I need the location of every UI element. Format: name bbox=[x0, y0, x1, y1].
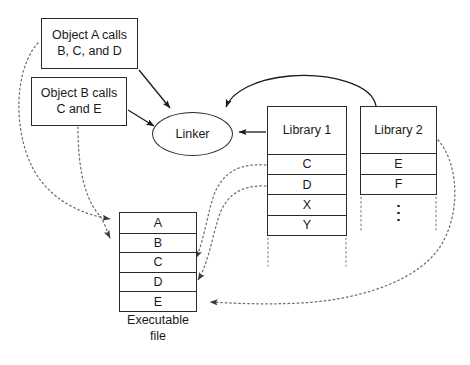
library-2-title: Library 2 bbox=[361, 107, 436, 153]
library-1-entry: D bbox=[268, 174, 346, 194]
library-2-table: Library 2 E F bbox=[360, 106, 437, 195]
executable-entry: B bbox=[120, 233, 196, 253]
executable-entry: A bbox=[120, 213, 196, 233]
linker-label: Linker bbox=[175, 127, 209, 141]
executable-entry: E bbox=[120, 291, 196, 311]
executable-entry: C bbox=[120, 252, 196, 272]
object-b-line2: C and E bbox=[56, 102, 101, 116]
edge-library1-c-to-exec-c bbox=[196, 165, 266, 258]
executable-file-caption: Executable file bbox=[104, 313, 212, 344]
library-1-entry: X bbox=[268, 194, 346, 214]
library-2-entry: F bbox=[361, 174, 436, 194]
executable-entry: D bbox=[120, 272, 196, 292]
library-1-title: Library 1 bbox=[268, 107, 346, 154]
executable-caption-line2: file bbox=[104, 329, 212, 345]
executable-caption-line1: Executable bbox=[104, 313, 212, 329]
library-2-ellipsis bbox=[360, 196, 437, 230]
edge-library1-d-to-exec-d bbox=[198, 186, 266, 280]
ellipsis-dot bbox=[397, 212, 399, 214]
library-1-entry: Y bbox=[268, 215, 346, 235]
object-a-line1: Object A calls bbox=[52, 28, 127, 42]
executable-file-table: A B C D E bbox=[119, 212, 197, 312]
object-b-line1: Object B calls bbox=[41, 86, 117, 100]
library-2-entry: E bbox=[361, 153, 436, 173]
library-1-table: Library 1 C D X Y bbox=[267, 106, 347, 236]
ellipsis-dot bbox=[397, 205, 399, 207]
object-b-text: Object B calls C and E bbox=[41, 86, 117, 117]
edge-object-a-to-exec-a bbox=[19, 43, 110, 219]
object-a-line2: B, C, and D bbox=[57, 44, 122, 58]
linker-node: Linker bbox=[152, 112, 233, 156]
edge-object-b-to-exec-b bbox=[78, 127, 110, 238]
library-1-entry: C bbox=[268, 154, 346, 174]
object-b-box: Object B calls C and E bbox=[31, 77, 127, 126]
linker-diagram: Object A calls B, C, and D Object B call… bbox=[0, 0, 470, 365]
object-a-text: Object A calls B, C, and D bbox=[52, 28, 127, 59]
ellipsis-dot bbox=[397, 219, 399, 221]
object-a-box: Object A calls B, C, and D bbox=[41, 18, 138, 69]
